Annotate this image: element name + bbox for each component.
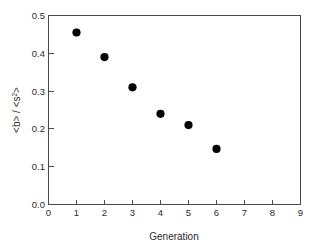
data-series <box>72 28 220 153</box>
x-tick-label: 4 <box>158 207 163 218</box>
plot-frame <box>49 16 301 205</box>
data-point <box>72 28 80 36</box>
x-tick-label: 7 <box>242 207 247 218</box>
x-tick-label: 9 <box>298 207 303 218</box>
x-axis-ticks <box>49 200 301 205</box>
x-axis-title: Generation <box>149 231 198 242</box>
x-tick-label: 8 <box>270 207 275 218</box>
data-point <box>128 83 136 91</box>
x-tick-label: 3 <box>130 207 135 218</box>
y-tick-label: 0.4 <box>32 48 45 59</box>
y-tick-label: 0.5 <box>32 10 45 21</box>
x-tick-label: 6 <box>214 207 219 218</box>
x-tick-label: 5 <box>186 207 191 218</box>
y-axis-ticks <box>49 16 54 205</box>
y-axis-title: <b> / <s2> <box>11 87 22 133</box>
x-tick-label: 1 <box>74 207 79 218</box>
figure-container: 0.5 0.4 0.3 0.2 0.1 0.0 0 1 2 3 4 <box>0 0 319 247</box>
x-tick-label: 2 <box>102 207 107 218</box>
y-tick-label: 0.3 <box>32 86 45 97</box>
y-tick-label: 0.2 <box>32 123 45 134</box>
y-tick-label: 0.0 <box>32 199 45 210</box>
svg-text:<b> / <s2>: <b> / <s2> <box>11 87 22 133</box>
x-tick-label: 0 <box>46 207 51 218</box>
y-axis-title-main: <b> / <s <box>11 97 22 133</box>
y-tick-label: 0.1 <box>32 161 45 172</box>
data-point <box>184 121 192 129</box>
y-axis-tick-labels: 0.5 0.4 0.3 0.2 0.1 0.0 <box>32 10 45 210</box>
x-axis-tick-labels: 0 1 2 3 4 5 6 7 8 9 <box>46 207 303 218</box>
data-point <box>212 145 220 153</box>
data-point <box>156 110 164 118</box>
y-axis-title-tail: > <box>11 87 22 93</box>
scatter-plot: 0.5 0.4 0.3 0.2 0.1 0.0 0 1 2 3 4 <box>0 0 319 247</box>
data-point <box>100 53 108 61</box>
